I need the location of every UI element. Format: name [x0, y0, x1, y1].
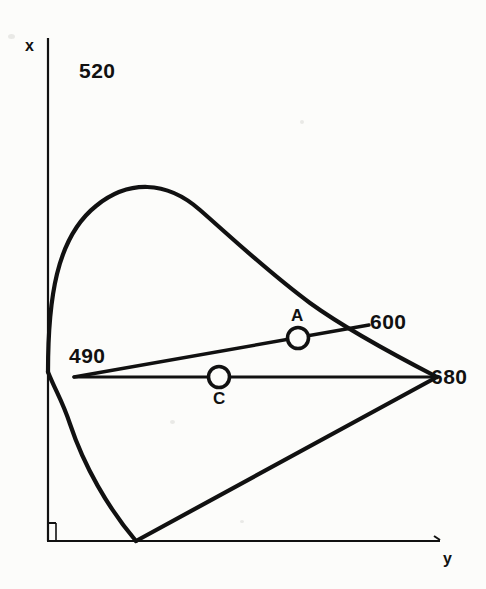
purple-line — [136, 377, 437, 541]
spectral-locus-left-limb — [48, 372, 136, 541]
point-label-c: C — [213, 390, 225, 407]
wavelength-label-520: 520 — [79, 60, 116, 81]
chromaticity-diagram-figure: x y 520 490 600 680 A C — [0, 0, 486, 589]
wavelength-label-600: 600 — [370, 311, 407, 332]
horizontal-axis-end-tick — [434, 536, 440, 540]
wavelength-label-490: 490 — [69, 345, 106, 366]
axes-group — [47, 38, 440, 541]
diagram-canvas — [0, 0, 486, 589]
wavelength-label-680: 680 — [431, 366, 468, 387]
point-label-a: A — [291, 307, 303, 324]
axis-label-x: x — [25, 38, 34, 54]
spectral-locus-group — [48, 187, 437, 541]
marker-c-circle[interactable] — [209, 367, 230, 388]
marker-a-circle[interactable] — [288, 328, 309, 349]
axis-label-y: y — [443, 551, 452, 567]
